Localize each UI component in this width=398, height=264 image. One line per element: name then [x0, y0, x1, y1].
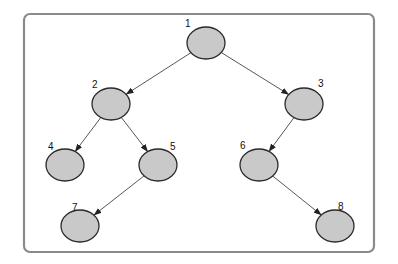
node-label-2: 2: [92, 79, 98, 90]
tree-node-6: [240, 149, 278, 181]
tree-node-3: [285, 88, 323, 120]
node-label-6: 6: [240, 140, 246, 151]
tree-node-2: [92, 88, 130, 120]
node-label-5: 5: [170, 141, 176, 152]
tree-node-7: [61, 210, 99, 242]
node-label-4: 4: [48, 141, 54, 152]
node-label-3: 3: [318, 78, 324, 89]
tree-node-4: [46, 149, 84, 181]
node-label-1: 1: [185, 18, 191, 29]
node-label-7: 7: [72, 202, 78, 213]
node-label-8: 8: [338, 201, 344, 212]
tree-node-1: [187, 27, 225, 59]
tree-node-8: [316, 210, 354, 242]
tree-node-5: [139, 149, 177, 181]
tree-diagram: 12345678: [0, 0, 398, 264]
